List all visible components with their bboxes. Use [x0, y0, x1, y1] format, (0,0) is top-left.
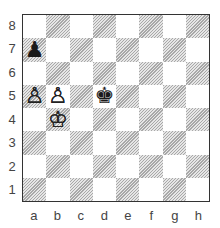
square-g6[interactable] — [163, 62, 186, 85]
square-a4[interactable] — [23, 108, 46, 131]
rank-label-2: 2 — [6, 159, 18, 174]
square-c3[interactable] — [70, 131, 93, 154]
square-e8[interactable] — [116, 15, 139, 38]
white-pawn-icon[interactable]: ♙ — [25, 85, 45, 107]
square-e2[interactable] — [116, 155, 139, 178]
square-f6[interactable] — [139, 62, 162, 85]
square-g7[interactable] — [163, 38, 186, 61]
square-b5[interactable]: ♙ — [46, 85, 69, 108]
file-label-c: c — [69, 208, 93, 223]
square-a5[interactable]: ♙ — [23, 85, 46, 108]
square-f3[interactable] — [139, 131, 162, 154]
square-h3[interactable] — [186, 131, 209, 154]
rank-label-6: 6 — [6, 65, 18, 80]
black-pawn-icon[interactable]: ♟ — [25, 39, 45, 61]
square-h8[interactable] — [186, 15, 209, 38]
square-b1[interactable] — [46, 178, 69, 201]
square-e1[interactable] — [116, 178, 139, 201]
square-c7[interactable] — [70, 38, 93, 61]
square-b2[interactable] — [46, 155, 69, 178]
rank-label-7: 7 — [6, 41, 18, 56]
square-h2[interactable] — [186, 155, 209, 178]
white-pawn-icon[interactable]: ♙ — [48, 85, 68, 107]
rank-label-4: 4 — [6, 112, 18, 127]
black-king-icon[interactable]: ♚ — [95, 85, 115, 107]
square-e4[interactable] — [116, 108, 139, 131]
square-c8[interactable] — [70, 15, 93, 38]
square-c4[interactable] — [70, 108, 93, 131]
square-c1[interactable] — [70, 178, 93, 201]
square-g1[interactable] — [163, 178, 186, 201]
square-h4[interactable] — [186, 108, 209, 131]
square-d7[interactable] — [93, 38, 116, 61]
rank-label-8: 8 — [6, 18, 18, 33]
square-f5[interactable] — [139, 85, 162, 108]
rank-label-3: 3 — [6, 135, 18, 150]
square-e5[interactable] — [116, 85, 139, 108]
file-label-a: a — [22, 208, 46, 223]
file-label-g: g — [163, 208, 187, 223]
square-b6[interactable] — [46, 62, 69, 85]
file-label-d: d — [93, 208, 117, 223]
square-f2[interactable] — [139, 155, 162, 178]
square-b3[interactable] — [46, 131, 69, 154]
square-h6[interactable] — [186, 62, 209, 85]
rank-label-1: 1 — [6, 182, 18, 197]
file-label-b: b — [46, 208, 70, 223]
white-king-icon[interactable]: ♔ — [48, 109, 68, 131]
square-e3[interactable] — [116, 131, 139, 154]
chess-board: ♟♙♙♚♔ — [22, 14, 210, 202]
file-label-e: e — [116, 208, 140, 223]
square-h5[interactable] — [186, 85, 209, 108]
square-h7[interactable] — [186, 38, 209, 61]
square-g8[interactable] — [163, 15, 186, 38]
square-d1[interactable] — [93, 178, 116, 201]
file-label-f: f — [140, 208, 164, 223]
square-b7[interactable] — [46, 38, 69, 61]
square-a7[interactable]: ♟ — [23, 38, 46, 61]
square-e6[interactable] — [116, 62, 139, 85]
square-g2[interactable] — [163, 155, 186, 178]
square-f8[interactable] — [139, 15, 162, 38]
square-g5[interactable] — [163, 85, 186, 108]
square-g3[interactable] — [163, 131, 186, 154]
square-b8[interactable] — [46, 15, 69, 38]
square-d2[interactable] — [93, 155, 116, 178]
square-f1[interactable] — [139, 178, 162, 201]
square-a6[interactable] — [23, 62, 46, 85]
square-a1[interactable] — [23, 178, 46, 201]
square-c2[interactable] — [70, 155, 93, 178]
square-a3[interactable] — [23, 131, 46, 154]
square-d6[interactable] — [93, 62, 116, 85]
square-g4[interactable] — [163, 108, 186, 131]
square-f7[interactable] — [139, 38, 162, 61]
square-d3[interactable] — [93, 131, 116, 154]
square-c6[interactable] — [70, 62, 93, 85]
square-d8[interactable] — [93, 15, 116, 38]
square-a2[interactable] — [23, 155, 46, 178]
square-c5[interactable] — [70, 85, 93, 108]
square-a8[interactable] — [23, 15, 46, 38]
square-h1[interactable] — [186, 178, 209, 201]
square-b4[interactable]: ♔ — [46, 108, 69, 131]
square-d4[interactable] — [93, 108, 116, 131]
square-e7[interactable] — [116, 38, 139, 61]
square-f4[interactable] — [139, 108, 162, 131]
file-label-h: h — [187, 208, 211, 223]
rank-label-5: 5 — [6, 88, 18, 103]
square-d5[interactable]: ♚ — [93, 85, 116, 108]
